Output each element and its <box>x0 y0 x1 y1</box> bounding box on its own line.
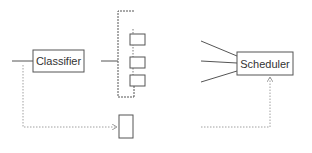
buffer-box[interactable] <box>119 115 133 138</box>
scheduler-label: Scheduler <box>240 58 290 70</box>
feedback-to-scheduler-dotted-line <box>201 77 270 127</box>
queue-slot-2[interactable] <box>130 57 145 68</box>
diagram-canvas: Classifier Scheduler <box>0 0 312 153</box>
classifier-label: Classifier <box>36 55 82 67</box>
scheduler-input-line-2 <box>201 61 237 63</box>
queue-slot-1[interactable] <box>130 34 145 45</box>
scheduler-node[interactable]: Scheduler <box>237 52 293 75</box>
scheduler-input-line-3 <box>201 71 237 82</box>
classifier-to-buffer-dotted-line <box>23 65 117 127</box>
classifier-node[interactable]: Classifier <box>33 50 84 72</box>
queue-slot-3[interactable] <box>130 75 145 86</box>
scheduler-input-line-1 <box>201 41 237 56</box>
